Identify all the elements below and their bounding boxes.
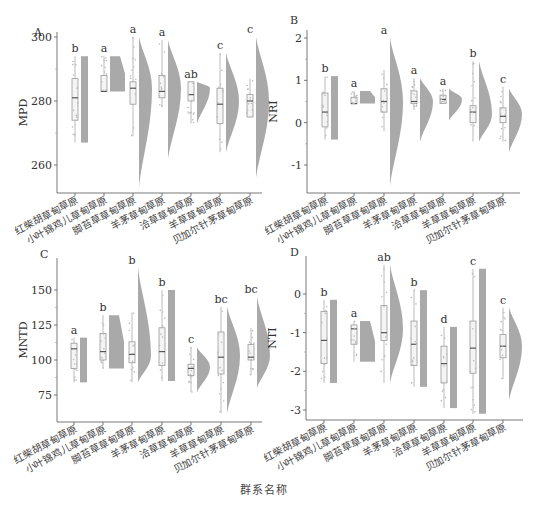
data-point bbox=[410, 90, 412, 92]
y-tick-label: -3 bbox=[290, 404, 301, 417]
data-point bbox=[132, 57, 134, 59]
data-point bbox=[472, 73, 474, 75]
data-point bbox=[355, 342, 357, 344]
data-point bbox=[354, 96, 356, 98]
data-point bbox=[246, 85, 248, 87]
data-point bbox=[471, 112, 473, 114]
y-axis-title: MNTD bbox=[17, 321, 30, 358]
panel-b: B-1012NRIb红柴胡草甸草原a小叶锦鸡儿草甸草原a脚苔草草甸草原a羊茅草甸… bbox=[262, 14, 522, 246]
data-point bbox=[381, 296, 383, 298]
data-point bbox=[501, 128, 503, 130]
data-point bbox=[249, 341, 251, 343]
data-point bbox=[386, 292, 388, 294]
data-point bbox=[326, 306, 328, 308]
box bbox=[188, 364, 194, 375]
significance-letter: c bbox=[500, 294, 506, 307]
data-point bbox=[100, 340, 102, 342]
data-point bbox=[101, 56, 103, 58]
violin-half bbox=[110, 56, 125, 91]
violin-half bbox=[509, 308, 522, 401]
data-point bbox=[191, 112, 193, 114]
data-point bbox=[414, 326, 416, 328]
data-point bbox=[326, 76, 328, 78]
data-point bbox=[103, 348, 105, 350]
data-point bbox=[351, 339, 353, 341]
violin-half bbox=[139, 37, 152, 187]
data-point bbox=[440, 99, 442, 101]
x-axis-title: 群系名称 bbox=[240, 481, 288, 497]
significance-letter: b bbox=[158, 276, 165, 289]
data-point bbox=[411, 382, 413, 384]
data-point bbox=[133, 66, 135, 68]
data-point bbox=[472, 273, 474, 275]
data-point bbox=[75, 379, 77, 381]
data-point bbox=[504, 318, 506, 320]
data-point bbox=[500, 329, 502, 331]
data-point bbox=[501, 357, 503, 359]
data-point bbox=[442, 389, 444, 391]
data-point bbox=[320, 361, 322, 363]
data-point bbox=[130, 380, 132, 382]
data-point bbox=[442, 90, 444, 92]
data-point bbox=[75, 64, 77, 66]
y-tick-label: -1 bbox=[291, 159, 302, 172]
data-point bbox=[222, 90, 224, 92]
significance-letter: a bbox=[130, 23, 137, 36]
data-point bbox=[500, 113, 502, 115]
data-point bbox=[444, 337, 446, 339]
data-point bbox=[250, 97, 252, 99]
data-point bbox=[473, 81, 475, 83]
data-point bbox=[128, 358, 130, 360]
data-point bbox=[158, 43, 160, 45]
data-point bbox=[133, 127, 135, 129]
y-axis-title: NRI bbox=[267, 100, 280, 122]
data-point bbox=[356, 332, 358, 334]
data-point bbox=[326, 112, 328, 114]
data-point bbox=[446, 354, 448, 356]
data-point bbox=[161, 377, 163, 379]
data-point bbox=[71, 339, 73, 341]
data-point bbox=[222, 382, 224, 384]
data-point bbox=[216, 116, 218, 118]
y-tick-label: 0 bbox=[294, 288, 301, 301]
data-point bbox=[132, 345, 134, 347]
violin-half bbox=[80, 338, 87, 383]
box bbox=[441, 346, 447, 383]
violin-half bbox=[509, 89, 522, 153]
data-point bbox=[247, 88, 249, 90]
significance-letter: a bbox=[351, 307, 358, 320]
data-point bbox=[190, 382, 192, 384]
data-point bbox=[382, 106, 384, 108]
data-point bbox=[191, 370, 193, 372]
violin-half bbox=[390, 265, 403, 383]
panel-label: C bbox=[40, 248, 48, 261]
data-point bbox=[252, 330, 254, 332]
data-point bbox=[76, 87, 78, 89]
data-point bbox=[382, 100, 384, 102]
data-point bbox=[474, 97, 476, 99]
data-point bbox=[440, 90, 442, 92]
box bbox=[217, 88, 223, 123]
data-point bbox=[384, 90, 386, 92]
data-point bbox=[326, 115, 328, 117]
data-point bbox=[251, 337, 253, 339]
data-point bbox=[415, 97, 417, 99]
significance-letter: a bbox=[381, 24, 388, 37]
data-point bbox=[500, 102, 502, 104]
significance-letter: bc bbox=[244, 283, 257, 296]
data-point bbox=[410, 338, 412, 340]
data-point bbox=[252, 369, 254, 371]
data-point bbox=[412, 359, 414, 361]
y-tick-label: 75 bbox=[38, 389, 52, 402]
data-point bbox=[501, 378, 503, 380]
data-point bbox=[414, 289, 416, 291]
data-point bbox=[246, 112, 248, 114]
data-point bbox=[220, 388, 222, 390]
data-point bbox=[412, 364, 414, 366]
data-point bbox=[159, 95, 161, 97]
significance-letter: c bbox=[500, 73, 506, 86]
significance-letter: b bbox=[128, 254, 135, 267]
box bbox=[159, 75, 165, 97]
data-point bbox=[101, 81, 103, 83]
data-point bbox=[325, 310, 327, 312]
